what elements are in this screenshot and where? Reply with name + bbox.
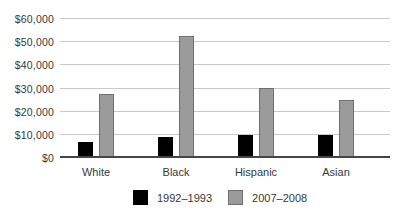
- gridline-40000: [60, 64, 390, 65]
- gridline-30000: [60, 88, 390, 89]
- legend: 1992–19932007–2008: [133, 190, 307, 205]
- bar-hispanic-2007-2008: [259, 88, 274, 158]
- grouped-bar-chart: $0$10,000$20,000$30,000$40,000$50,000$60…: [0, 0, 393, 217]
- bar-asian-1992-1993: [318, 135, 333, 158]
- y-tick-label-10000: $10,000: [0, 129, 54, 141]
- bar-asian-2007-2008: [339, 100, 354, 158]
- bar-black-2007-2008: [179, 36, 194, 158]
- x-axis-label-white: White: [61, 166, 131, 178]
- legend-item-2007-2008: 2007–2008: [228, 190, 307, 205]
- gridline-60000: [60, 18, 390, 19]
- y-tick-label-30000: $30,000: [0, 83, 54, 95]
- x-axis-label-asian: Asian: [301, 166, 371, 178]
- legend-swatch-2007-2008: [228, 190, 243, 205]
- y-tick-label-20000: $20,000: [0, 106, 54, 118]
- legend-swatch-1992-1993: [133, 190, 148, 205]
- gridline-50000: [60, 41, 390, 42]
- legend-item-1992-1993: 1992–1993: [133, 190, 212, 205]
- bar-white-2007-2008: [99, 94, 114, 158]
- plot-area: [60, 19, 390, 158]
- bar-black-1992-1993: [158, 137, 173, 158]
- y-tick-label-60000: $60,000: [0, 13, 54, 25]
- y-tick-label-50000: $50,000: [0, 36, 54, 48]
- x-axis-label-black: Black: [141, 166, 211, 178]
- y-tick-label-0: $0: [0, 152, 54, 164]
- bar-hispanic-1992-1993: [238, 135, 253, 158]
- x-axis-label-hispanic: Hispanic: [221, 166, 291, 178]
- y-tick-label-40000: $40,000: [0, 59, 54, 71]
- legend-label-2007-2008: 2007–2008: [252, 192, 307, 204]
- legend-label-1992-1993: 1992–1993: [157, 192, 212, 204]
- x-axis-line: [60, 156, 390, 158]
